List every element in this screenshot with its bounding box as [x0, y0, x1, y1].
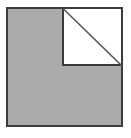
- geometric-figure-svg: [0, 0, 131, 138]
- figure-canvas: [0, 0, 131, 138]
